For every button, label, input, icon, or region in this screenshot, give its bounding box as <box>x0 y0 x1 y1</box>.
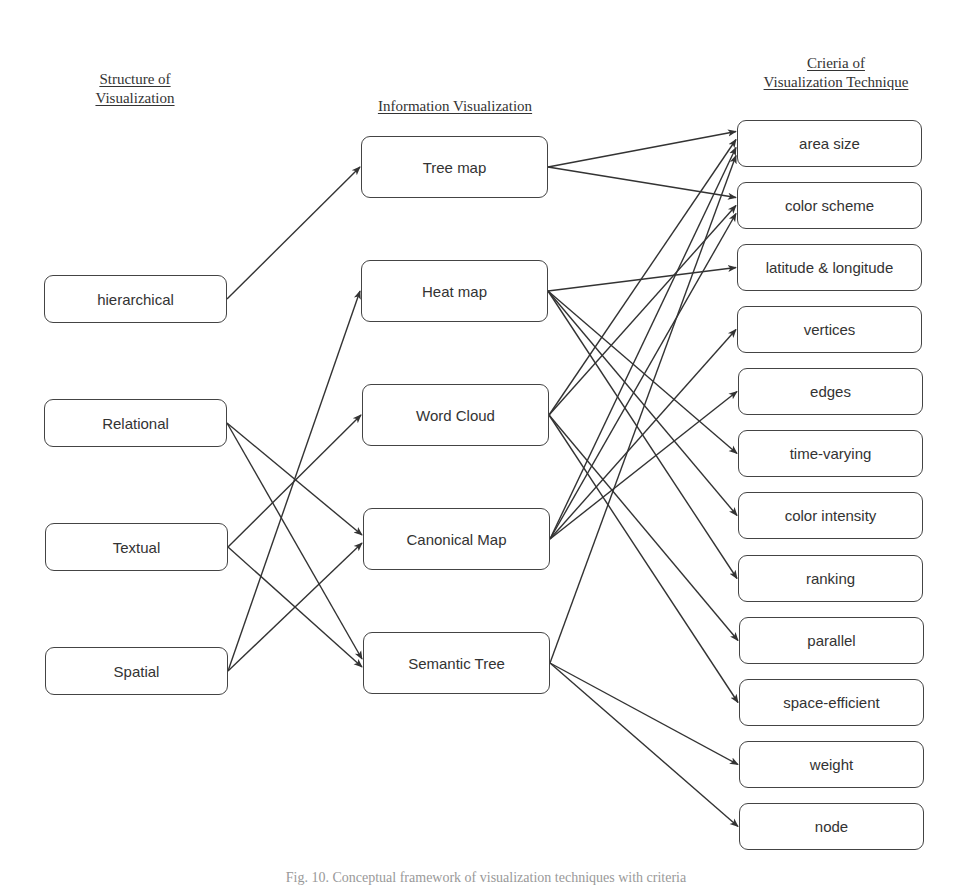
node-textual: Textual <box>45 523 228 571</box>
node-word-cloud: Word Cloud <box>362 384 549 446</box>
node-time-varying: time-varying <box>738 430 923 477</box>
node-color-intensity: color intensity <box>738 492 923 539</box>
connector-canonical-vertices <box>550 330 736 540</box>
connector-heatmap-ranking <box>548 291 737 579</box>
connector-semantic-node <box>550 663 738 827</box>
node-space-efficient: space-efficient <box>739 679 924 726</box>
node-heat-map: Heat map <box>361 260 548 322</box>
figure-caption: Fig. 10. Conceptual framework of visuali… <box>0 870 972 886</box>
connector-textual-wordcloud <box>228 415 361 547</box>
node-area-size: area size <box>737 120 922 167</box>
connector-relational-canonical <box>227 423 362 535</box>
node-hierarchical: hierarchical <box>44 275 227 323</box>
node-canonical-map: Canonical Map <box>363 508 550 570</box>
connector-relational-semantic <box>227 423 362 659</box>
connector-heatmap-colorintensity <box>548 291 737 516</box>
node-parallel: parallel <box>739 617 924 664</box>
node-semantic-tree: Semantic Tree <box>363 632 550 694</box>
node-relational: Relational <box>44 399 227 447</box>
node-color-scheme: color scheme <box>737 182 922 229</box>
connector-treemap-colorscheme <box>548 167 736 198</box>
info-column-title: Information Visualization <box>300 97 610 116</box>
connector-hierarchical-treemap <box>227 167 360 299</box>
node-tree-map: Tree map <box>361 136 548 198</box>
criteria-column-title: Crieria of Visualization Technique <box>700 54 972 92</box>
connector-spatial-canonical <box>228 543 362 671</box>
connector-wordcloud-area <box>549 140 736 416</box>
connector-canonical-edges <box>550 392 737 540</box>
node-weight: weight <box>739 741 924 788</box>
connector-treemap-area <box>548 132 736 168</box>
node-node: node <box>739 803 924 850</box>
connector-wordcloud-spaceefficient <box>549 415 738 703</box>
node-vertices: vertices <box>737 306 922 353</box>
node-ranking: ranking <box>738 555 923 602</box>
connector-canonical-area <box>550 148 736 540</box>
connector-wordcloud-colorscheme <box>549 206 736 416</box>
connector-semantic-weight <box>550 663 738 765</box>
node-spatial: Spatial <box>45 647 228 695</box>
connector-textual-semantic <box>228 547 362 667</box>
connector-heatmap-timevarying <box>548 291 737 454</box>
node-latitude-longitude: latitude & longitude <box>737 244 922 291</box>
connector-semantic-area <box>550 156 736 664</box>
connector-heatmap-latlong <box>548 268 736 292</box>
connector-spatial-heatmap <box>228 291 360 671</box>
node-edges: edges <box>738 368 923 415</box>
connector-wordcloud-parallel <box>549 415 738 641</box>
connector-canonical-colorscheme <box>550 214 736 540</box>
structure-column-title: Structure of Visualization <box>40 70 230 108</box>
